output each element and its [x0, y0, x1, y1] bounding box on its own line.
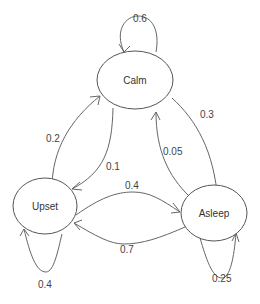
- edge-asleep-calm: 0.05: [151, 112, 190, 197]
- edge-label-calm-calm: 0.6: [133, 13, 147, 24]
- edge-upset-upset: 0.4: [20, 229, 62, 290]
- edge-calm-upset: 0.1: [72, 108, 120, 190]
- edge-label-asleep-upset: 0.7: [120, 244, 134, 255]
- edge-upset-asleep: 0.4: [76, 180, 180, 215]
- edge-label-asleep-calm: 0.05: [163, 146, 183, 157]
- edge-label-upset-asleep: 0.4: [125, 180, 139, 191]
- node-calm: Calm: [97, 51, 173, 109]
- node-asleep: Asleep: [181, 185, 247, 241]
- node-label-upset: Upset: [32, 201, 58, 212]
- edge-asleep-upset: 0.7: [74, 220, 185, 255]
- edge-label-asleep-asleep: 0.25: [212, 273, 232, 284]
- node-label-calm: Calm: [123, 75, 146, 86]
- node-upset: Upset: [13, 178, 77, 234]
- edge-label-upset-upset: 0.4: [38, 279, 52, 290]
- state-diagram: 0.6 0.3 0.05 0.2 0.1 0.4 0.7 0.4: [0, 0, 260, 304]
- node-label-asleep: Asleep: [199, 208, 230, 219]
- edge-label-calm-upset: 0.1: [106, 161, 120, 172]
- edge-label-upset-calm: 0.2: [46, 133, 60, 144]
- edge-label-calm-asleep: 0.3: [200, 109, 214, 120]
- edge-calm-calm: 0.6: [119, 13, 157, 52]
